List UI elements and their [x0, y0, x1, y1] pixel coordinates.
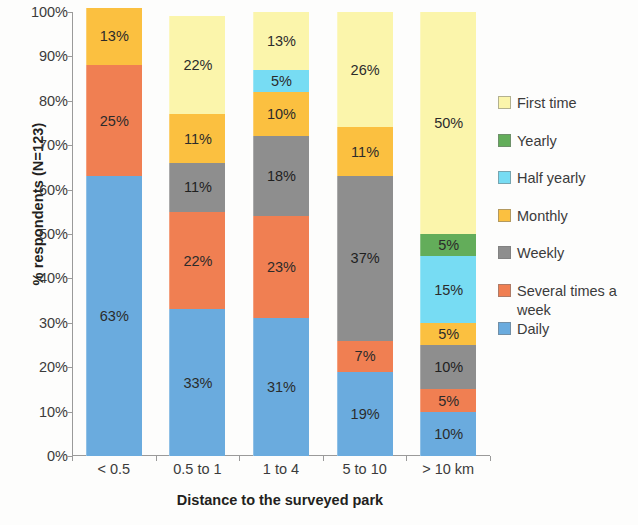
bar-segment[interactable]: 33% — [169, 309, 225, 456]
bar-segment[interactable]: 11% — [337, 127, 393, 176]
legend-item[interactable]: Monthly — [498, 207, 638, 226]
bar-column[interactable]: 10%5%10%5%15%5%50% — [420, 12, 476, 456]
bar-segment[interactable]: 5% — [420, 389, 476, 411]
y-axis-tick-label: 20% — [16, 359, 68, 375]
legend-item[interactable]: First time — [498, 94, 638, 113]
legend-item-label: Monthly — [517, 207, 568, 226]
legend-swatch-icon — [498, 171, 511, 184]
legend-item-label: Weekly — [517, 244, 564, 263]
bar-segment[interactable]: 19% — [337, 372, 393, 456]
bar-segment[interactable]: 22% — [169, 212, 225, 310]
y-axis-tick-labels: 0%10%20%30%40%50%60%70%80%90%100% — [16, 8, 68, 456]
bar-segment[interactable]: 10% — [420, 345, 476, 389]
plot-area: 63%25%13%33%22%11%11%22%31%23%18%10%5%13… — [72, 12, 490, 456]
y-axis-tick-label: 30% — [16, 315, 68, 331]
legend-item[interactable]: Yearly — [498, 132, 638, 151]
x-axis-tick-label: 1 to 4 — [238, 461, 324, 477]
bar-column[interactable]: 63%25%13% — [86, 12, 142, 456]
bar-segment[interactable]: 63% — [86, 176, 142, 456]
y-axis-tick-label: 50% — [16, 226, 68, 242]
legend-item[interactable]: Several times a week — [498, 282, 638, 320]
legend-swatch-icon — [498, 134, 511, 147]
legend-item-label: Yearly — [517, 132, 557, 151]
bar-segment[interactable]: 15% — [420, 256, 476, 323]
bar-segment[interactable]: 5% — [420, 234, 476, 256]
y-axis-tick-label: 100% — [16, 4, 68, 20]
bar-segment[interactable]: 37% — [337, 176, 393, 340]
y-axis-tick-label: 70% — [16, 137, 68, 153]
y-axis-tick-label: 0% — [16, 448, 68, 464]
bar-segment[interactable]: 18% — [253, 136, 309, 216]
bar-segment[interactable]: 11% — [169, 114, 225, 163]
legend-swatch-icon — [498, 284, 511, 297]
bar-segment[interactable]: 13% — [86, 8, 142, 66]
bar-column[interactable]: 33%22%11%11%22% — [169, 12, 225, 456]
bar-segment[interactable]: 7% — [337, 341, 393, 372]
bar-segment[interactable]: 11% — [169, 163, 225, 212]
bar-segment[interactable]: 31% — [253, 318, 309, 456]
bar-segment[interactable]: 5% — [253, 70, 309, 92]
bar-segment[interactable]: 50% — [420, 12, 476, 234]
y-axis-tick-label: 10% — [16, 404, 68, 420]
legend-swatch-icon — [498, 246, 511, 259]
x-axis-tick-label: > 10 km — [405, 461, 491, 477]
x-axis-tick-label: < 0.5 — [71, 461, 157, 477]
legend-item[interactable]: Half yearly — [498, 169, 638, 188]
y-axis-tick-label: 90% — [16, 48, 68, 64]
bar-segment[interactable]: 26% — [337, 12, 393, 127]
x-axis-tick-label: 0.5 to 1 — [154, 461, 240, 477]
bar-segment[interactable]: 25% — [86, 65, 142, 176]
legend-swatch-icon — [498, 209, 511, 222]
stacked-bars: 63%25%13%33%22%11%11%22%31%23%18%10%5%13… — [72, 12, 490, 456]
bar-segment[interactable]: 5% — [420, 323, 476, 345]
legend-item[interactable]: Daily — [498, 320, 638, 339]
chart-container: % respondents (N=123) 0%10%20%30%40%50%6… — [0, 0, 638, 525]
bar-column[interactable]: 19%7%37%11%26% — [337, 12, 393, 456]
bar-segment[interactable]: 22% — [169, 16, 225, 114]
bar-segment[interactable]: 10% — [253, 92, 309, 136]
bar-segment[interactable]: 23% — [253, 216, 309, 318]
legend-item-label: Half yearly — [517, 169, 586, 188]
legend-swatch-icon — [498, 322, 511, 335]
legend-item-label: First time — [517, 94, 577, 113]
x-axis-title: Distance to the surveyed park — [60, 492, 500, 508]
legend-item-label: Several times a week — [517, 282, 638, 320]
y-axis-tick-label: 40% — [16, 270, 68, 286]
x-axis-tick-label: 5 to 10 — [322, 461, 408, 477]
x-axis-tick-labels: < 0.50.5 to 11 to 45 to 10> 10 km — [72, 461, 490, 483]
legend-swatch-icon — [498, 96, 511, 109]
y-axis-tick-label: 60% — [16, 182, 68, 198]
y-axis-tick-label: 80% — [16, 93, 68, 109]
chart-legend: First timeYearlyHalf yearlyMonthlyWeekly… — [498, 94, 638, 357]
legend-item[interactable]: Weekly — [498, 244, 638, 263]
legend-item-label: Daily — [517, 320, 549, 339]
bar-column[interactable]: 31%23%18%10%5%13% — [253, 12, 309, 456]
bar-segment[interactable]: 13% — [253, 12, 309, 70]
bar-segment[interactable]: 10% — [420, 412, 476, 456]
